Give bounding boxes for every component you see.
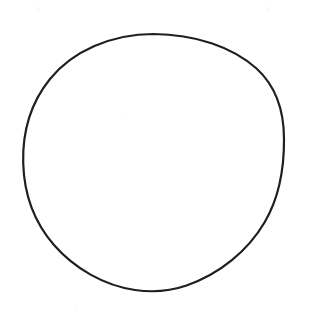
figure-canvas [0,0,309,316]
circle-outline-path [23,34,284,291]
circle-drawing-svg [0,0,309,316]
